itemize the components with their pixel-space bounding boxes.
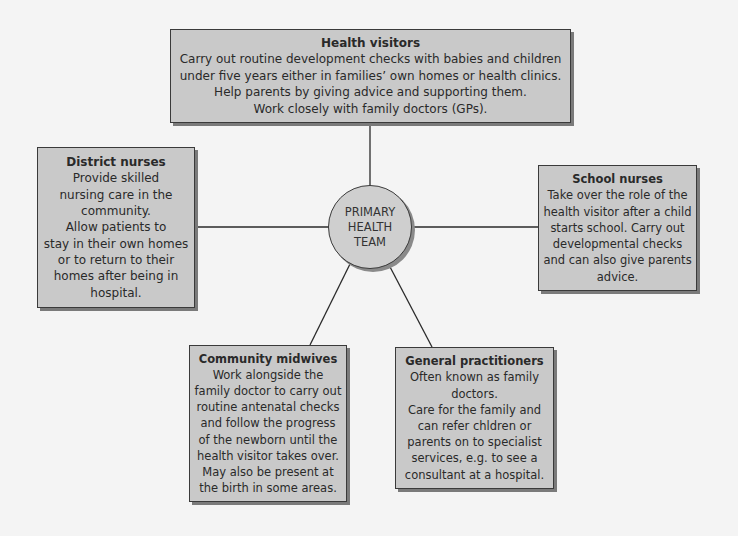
hub-primary-health-team: PRIMARY HEALTH TEAM: [328, 185, 412, 269]
node-text-line: hospital.: [42, 285, 190, 301]
node-text-line: nursing care in the: [42, 187, 190, 203]
node-text-line: can refer chldren or: [400, 418, 549, 434]
node-text-line: under five years either in families’ own…: [175, 68, 566, 85]
node-text-line: community.: [42, 203, 190, 219]
node-text-line: family doctor to carry out: [194, 383, 342, 399]
node-text-line: health visitor after a child: [543, 204, 692, 220]
hub-label-line: HEALTH: [348, 220, 392, 235]
node-general-practitioners: General practitioners Often known as fam…: [395, 347, 554, 489]
node-text-line: Help parents by giving advice and suppor…: [175, 84, 566, 101]
node-text-line: homes after being in: [42, 268, 190, 284]
connector-community-midwives: [310, 264, 350, 345]
node-text-line: consultant at a hospital.: [400, 467, 549, 483]
node-community-midwives: Community midwives Work alongside the fa…: [189, 345, 347, 502]
node-text-line: routine antenatal checks: [194, 399, 342, 415]
node-text-line: and can also give parents: [543, 252, 692, 268]
node-district-nurses: District nurses Provide skilled nursing …: [37, 147, 195, 308]
node-text-line: Provide skilled: [42, 170, 190, 186]
node-text-line: Take over the role of the: [543, 187, 692, 203]
node-title: Community midwives: [194, 351, 342, 367]
node-title: Health visitors: [175, 35, 566, 52]
node-text-line: Allow patients to: [42, 219, 190, 235]
node-text-line: doctors.: [400, 386, 549, 402]
node-text-line: Work alongside the: [194, 367, 342, 383]
node-text-line: developmental checks: [543, 236, 692, 252]
node-health-visitors: Health visitors Carry out routine develo…: [170, 29, 571, 123]
node-text-line: and follow the progress: [194, 415, 342, 431]
node-text-line: Care for the family and: [400, 402, 549, 418]
node-title: General practitioners: [400, 353, 549, 369]
node-school-nurses: School nurses Take over the role of the …: [538, 165, 697, 291]
hub-label-line: TEAM: [354, 235, 386, 250]
node-text-line: May also be present at: [194, 464, 342, 480]
hub-label-line: PRIMARY: [345, 205, 395, 220]
node-text-line: or to return to their: [42, 252, 190, 268]
node-title: School nurses: [543, 171, 692, 187]
node-text-line: advice.: [543, 269, 692, 285]
connector-general-practitioners: [389, 265, 432, 347]
node-text-line: stay in their own homes: [42, 236, 190, 252]
node-text-line: the birth in some areas.: [194, 480, 342, 496]
node-title: District nurses: [42, 154, 190, 170]
node-text-line: Work closely with family doctors (GPs).: [175, 101, 566, 118]
node-text-line: parents on to specialist: [400, 434, 549, 450]
primary-health-team-diagram: Health visitors Carry out routine develo…: [0, 0, 738, 536]
node-text-line: Carry out routine development checks wit…: [175, 51, 566, 68]
node-text-line: Often known as family: [400, 369, 549, 385]
node-text-line: of the newborn until the: [194, 432, 342, 448]
node-text-line: starts school. Carry out: [543, 220, 692, 236]
node-text-line: health visitor takes over.: [194, 448, 342, 464]
node-text-line: services, e.g. to see a: [400, 450, 549, 466]
